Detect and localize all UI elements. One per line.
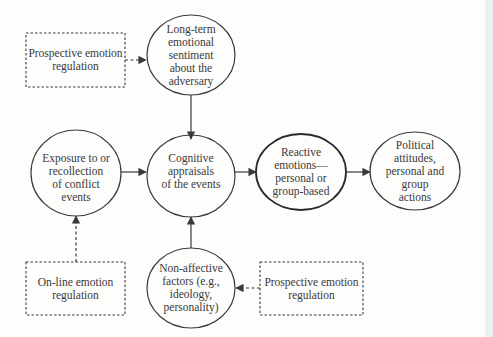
svg-text:On-line emotion: On-line emotion: [38, 276, 114, 288]
node-long-term-sentiment: Long-term emotional sentiment about the …: [147, 15, 235, 95]
svg-text:of conflict: of conflict: [52, 178, 100, 190]
svg-text:attitudes,: attitudes,: [394, 152, 436, 165]
svg-text:Prospective emotion: Prospective emotion: [264, 276, 358, 289]
svg-text:group-based: group-based: [273, 185, 330, 198]
svg-text:Long-term: Long-term: [166, 23, 215, 36]
svg-text:events: events: [61, 191, 91, 203]
node-exposure: Exposure to or recollection of conflict …: [31, 130, 121, 216]
svg-text:personality): personality): [164, 301, 219, 314]
svg-text:of the events: of the events: [162, 178, 221, 190]
svg-text:about the: about the: [170, 62, 212, 74]
node-reactive-emotions: Reactive emotions— personal or group-bas…: [256, 134, 346, 210]
svg-text:appraisals: appraisals: [168, 165, 215, 178]
node-prospective-bottom: Prospective emotion regulation: [260, 262, 363, 315]
svg-text:regulation: regulation: [288, 289, 335, 302]
svg-text:Prospective emotion: Prospective emotion: [28, 47, 122, 60]
svg-text:group: group: [402, 178, 429, 191]
svg-text:actions: actions: [399, 191, 432, 203]
svg-text:Reactive: Reactive: [281, 146, 321, 158]
svg-text:factors (e.g.,: factors (e.g.,: [162, 275, 220, 288]
svg-text:regulation: regulation: [52, 60, 99, 73]
svg-text:sentiment: sentiment: [169, 49, 215, 61]
svg-text:Non-affective: Non-affective: [159, 262, 223, 274]
svg-text:ideology,: ideology,: [170, 288, 212, 301]
svg-text:emotional: emotional: [168, 36, 214, 48]
node-online-regulation: On-line emotion regulation: [26, 262, 125, 315]
svg-text:recollection: recollection: [49, 165, 104, 177]
svg-text:personal or: personal or: [275, 172, 327, 185]
node-cognitive-appraisals: Cognitive appraisals of the events: [147, 135, 235, 217]
node-non-affective-factors: Non-affective factors (e.g., ideology, p…: [147, 248, 235, 328]
svg-text:Exposure to or: Exposure to or: [42, 152, 110, 165]
svg-text:Political: Political: [396, 139, 434, 151]
diagram-canvas: Prospective emotion regulation Long-term…: [0, 0, 493, 337]
svg-text:regulation: regulation: [52, 289, 99, 302]
svg-text:adversary: adversary: [169, 75, 214, 88]
node-political-attitudes: Political attitudes, personal and group …: [370, 132, 460, 210]
node-prospective-top: Prospective emotion regulation: [26, 33, 125, 87]
svg-text:emotions—: emotions—: [274, 159, 328, 171]
svg-text:Cognitive: Cognitive: [168, 152, 213, 165]
svg-text:personal and: personal and: [386, 165, 445, 178]
